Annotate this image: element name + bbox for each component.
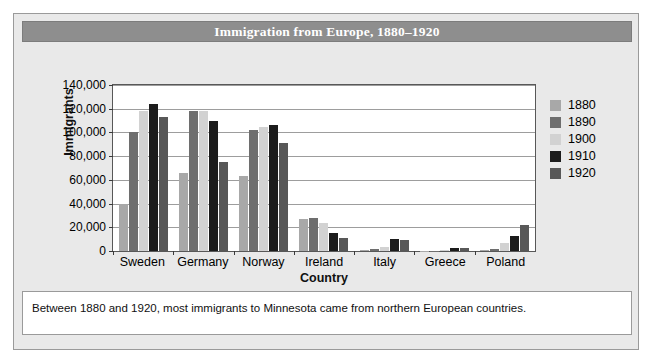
bar-group	[294, 85, 354, 251]
bar	[299, 219, 308, 251]
y-axis-tick-label: 80,000	[69, 149, 106, 163]
bar	[339, 238, 348, 251]
bar	[460, 248, 469, 251]
bar	[209, 121, 218, 251]
legend-item: 1890	[550, 114, 620, 130]
bar	[360, 250, 369, 251]
y-axis-tick-label: 20,000	[69, 220, 106, 234]
bar	[279, 143, 288, 251]
bar	[139, 111, 148, 251]
x-axis-title: Country	[112, 271, 536, 285]
plot-area	[112, 84, 536, 252]
x-axis-tick-label: Norway	[233, 255, 294, 269]
legend-label: 1880	[568, 98, 596, 112]
chart-figure: Immigration from Europe, 1880–1920 Immig…	[13, 13, 639, 350]
legend-item: 1880	[550, 97, 620, 113]
y-axis-tick-label: 120,000	[63, 102, 106, 116]
bar	[490, 249, 499, 251]
legend-swatch-icon	[550, 134, 561, 145]
bar	[329, 233, 338, 251]
bar	[370, 249, 379, 251]
bar	[380, 247, 389, 251]
bar	[249, 130, 258, 251]
legend-swatch-icon	[550, 100, 561, 111]
bar-group	[234, 85, 294, 251]
y-axis-tick-label: 140,000	[63, 78, 106, 92]
bar	[259, 127, 268, 252]
bar-group	[113, 85, 173, 251]
y-axis-tick-label: 40,000	[69, 197, 106, 211]
x-axis-tick-label: Greece	[415, 255, 476, 269]
bar	[239, 176, 248, 251]
bar	[119, 204, 128, 251]
legend-label: 1910	[568, 149, 596, 163]
bar-group	[173, 85, 233, 251]
legend-item: 1920	[550, 165, 620, 181]
bar	[159, 117, 168, 251]
bar	[149, 104, 158, 251]
y-axis-tick-label: 60,000	[69, 173, 106, 187]
x-axis-tick-label: Poland	[475, 255, 536, 269]
legend-item: 1900	[550, 131, 620, 147]
caption-text: Between 1880 and 1920, most immigrants t…	[32, 302, 526, 314]
bar	[189, 111, 198, 251]
bar	[450, 248, 459, 251]
legend-swatch-icon	[550, 117, 561, 128]
bar	[520, 225, 529, 251]
x-axis-tick-label: Sweden	[112, 255, 173, 269]
bar	[319, 223, 328, 251]
x-axis-tick-label: Ireland	[294, 255, 355, 269]
legend-swatch-icon	[550, 151, 561, 162]
bar	[500, 243, 509, 251]
y-axis-tick-label: 0	[99, 244, 106, 258]
bar-group	[475, 85, 535, 251]
bar	[420, 251, 429, 252]
bar	[440, 250, 449, 251]
bar	[269, 125, 278, 251]
bar	[480, 250, 489, 251]
bar	[309, 218, 318, 251]
legend-label: 1920	[568, 166, 596, 180]
bar	[199, 111, 208, 251]
bar	[129, 132, 138, 251]
legend-item: 1910	[550, 148, 620, 164]
chart-title: Immigration from Europe, 1880–1920	[214, 24, 439, 40]
legend-label: 1900	[568, 132, 596, 146]
bar-group	[414, 85, 474, 251]
x-axis-tick-label: Italy	[354, 255, 415, 269]
x-axis-tick-label: Germany	[173, 255, 234, 269]
chart-legend: 18801890190019101920	[550, 97, 620, 182]
bar-group	[354, 85, 414, 251]
bar	[430, 251, 439, 252]
x-axis-tick-labels: SwedenGermanyNorwayIrelandItalyGreecePol…	[112, 255, 536, 269]
chart-title-bar: Immigration from Europe, 1880–1920	[22, 21, 632, 42]
legend-label: 1890	[568, 115, 596, 129]
caption-box: Between 1880 and 1920, most immigrants t…	[22, 291, 632, 335]
bar	[179, 173, 188, 251]
bar	[400, 240, 409, 251]
bar	[390, 239, 399, 251]
bar	[219, 162, 228, 251]
legend-swatch-icon	[550, 168, 561, 179]
plot-card: Immigrants 020,00040,00060,00080,000100,…	[22, 47, 632, 282]
bar-groups	[113, 85, 535, 251]
y-axis-tick-labels: 020,00040,00060,00080,000100,000120,0001…	[44, 84, 106, 252]
bar	[510, 236, 519, 251]
y-axis-tick-label: 100,000	[63, 125, 106, 139]
